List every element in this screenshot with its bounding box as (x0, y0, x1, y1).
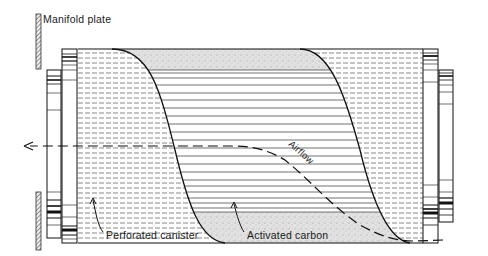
manifold-plate-bottom (36, 192, 41, 250)
right-end-cap-inner (423, 49, 438, 243)
manifold-plate-top (36, 14, 41, 69)
perforated-canister-label: Perforated canister (106, 229, 199, 241)
left-end-cap-outer (47, 70, 61, 238)
perforated-canister-leader (93, 200, 103, 232)
activated-carbon-label: Activated carbon (247, 229, 328, 241)
right-end-cap-outer (439, 70, 453, 222)
filter-diagram (0, 0, 488, 256)
manifold-plate-label: Manifold plate (43, 13, 111, 25)
